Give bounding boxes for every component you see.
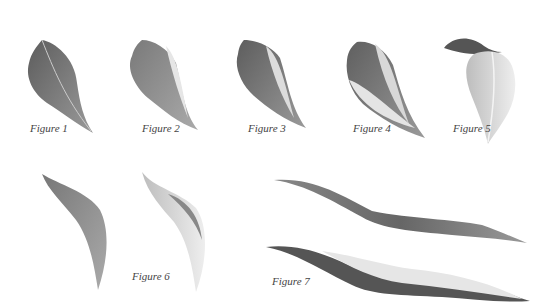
- figure-5: Figure 5: [440, 32, 550, 147]
- leaf-illustration-7a: [262, 175, 532, 235]
- figure-3-label: Figure 3: [248, 122, 286, 134]
- figure-3: Figure 3: [236, 28, 316, 138]
- figure-6: Figure 6: [38, 170, 218, 295]
- figure-6-label: Figure 6: [132, 270, 170, 282]
- figure-7-label: Figure 7: [272, 275, 310, 287]
- leaf-illustration-6a: [38, 170, 118, 295]
- figure-2-label: Figure 2: [142, 122, 180, 134]
- figure-4-label: Figure 4: [353, 122, 391, 134]
- figure-1: Figure 1: [25, 28, 95, 138]
- figure-5-label: Figure 5: [453, 122, 491, 134]
- figure-4: Figure 4: [345, 20, 430, 140]
- figure-1-label: Figure 1: [30, 122, 68, 134]
- figure-7: Figure 7: [262, 175, 532, 290]
- figure-2: Figure 2: [128, 28, 203, 138]
